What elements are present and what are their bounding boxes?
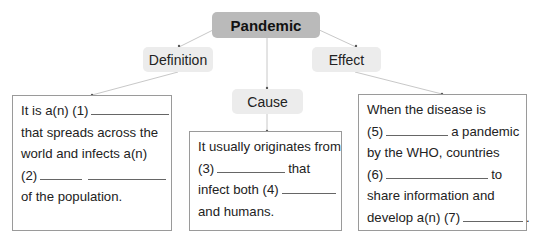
root-node-pandemic: Pandemic <box>212 12 320 38</box>
text-line: It is a(n) (1) <box>21 100 171 122</box>
answer-blank[interactable] <box>40 167 82 180</box>
line-text: (6) <box>367 167 383 182</box>
line-text: by the WHO, countries <box>367 145 500 160</box>
text-line: of the population. <box>21 186 171 208</box>
text-line: (2) <box>21 165 171 187</box>
line-text: to <box>491 167 502 182</box>
text-line: world and infects a(n) <box>21 143 171 165</box>
answer-blank[interactable] <box>88 167 166 180</box>
line-text: develop a(n) (7) <box>367 210 460 225</box>
answer-blank[interactable] <box>217 160 285 173</box>
text-line: (3)that <box>198 158 341 180</box>
answer-blank[interactable] <box>386 166 488 179</box>
answer-blank[interactable] <box>386 123 448 136</box>
text-line: that spreads across the <box>21 122 171 144</box>
line-text: (5) <box>367 124 383 139</box>
node-cause: Cause <box>232 89 303 114</box>
line-text: It usually originates from <box>198 139 341 154</box>
text-line: and humans. <box>198 201 341 223</box>
line-text: . <box>526 210 530 225</box>
definition-box: It is a(n) (1)that spreads across thewor… <box>12 95 172 231</box>
line-text: (2) <box>21 168 37 183</box>
line-text: share information and <box>367 188 495 203</box>
text-line: It usually originates from <box>198 136 341 158</box>
line-text: world and infects a(n) <box>21 146 147 161</box>
text-line: (6)to <box>367 164 526 186</box>
line-text: infect both (4) <box>198 182 279 197</box>
text-line: develop a(n) (7). <box>367 207 526 229</box>
text-line: by the WHO, countries <box>367 142 526 164</box>
text-line: When the disease is <box>367 99 526 121</box>
answer-blank[interactable] <box>91 102 169 115</box>
text-line: share information and <box>367 185 526 207</box>
cause-box: It usually originates from(3)thatinfect … <box>189 131 342 231</box>
line-text: a pandemic <box>451 124 519 139</box>
node-definition: Definition <box>143 47 213 72</box>
line-text: It is a(n) (1) <box>21 103 88 118</box>
line-text: When the disease is <box>367 102 486 117</box>
line-text: (3) <box>198 161 214 176</box>
answer-blank[interactable] <box>282 181 336 194</box>
line-text: that spreads across the <box>21 125 158 140</box>
answer-blank[interactable] <box>463 209 523 222</box>
text-line: infect both (4) <box>198 179 341 201</box>
effect-box: When the disease is(5)a pandemicby the W… <box>358 94 527 231</box>
text-line: (5)a pandemic <box>367 121 526 143</box>
line-text: that <box>288 161 310 176</box>
node-effect: Effect <box>312 47 381 72</box>
line-text: of the population. <box>21 189 122 204</box>
line-text: and humans. <box>198 204 274 219</box>
